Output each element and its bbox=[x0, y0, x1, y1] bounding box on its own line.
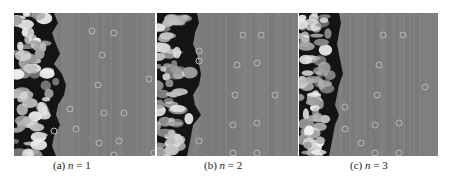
caption-b: (b) n = 2 bbox=[204, 159, 242, 171]
panel-a-image bbox=[14, 13, 155, 156]
caption-c: (c) n = 3 bbox=[350, 159, 388, 171]
micrograph-texture bbox=[299, 13, 438, 156]
caption-b-value: 2 bbox=[237, 159, 243, 171]
caption-b-eq: = bbox=[225, 159, 237, 171]
micrograph-texture bbox=[14, 13, 155, 156]
panel-b-image bbox=[157, 13, 298, 156]
caption-c-eq: = bbox=[370, 159, 382, 171]
caption-a: (a) n = 1 bbox=[53, 159, 91, 171]
caption-c-label: (c) bbox=[350, 159, 362, 171]
caption-a-value: 1 bbox=[85, 159, 91, 171]
caption-c-value: 3 bbox=[382, 159, 388, 171]
caption-b-label: (b) bbox=[204, 159, 217, 171]
caption-a-label: (a) bbox=[53, 159, 65, 171]
caption-a-eq: = bbox=[73, 159, 85, 171]
micrograph-texture bbox=[157, 13, 298, 156]
panel-c-image bbox=[299, 13, 438, 156]
